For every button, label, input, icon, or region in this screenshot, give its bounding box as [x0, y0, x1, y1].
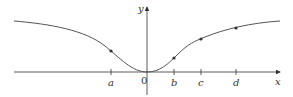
x-axis-label: x [275, 76, 281, 87]
point-a [109, 49, 112, 52]
tick-label-b: b [171, 77, 177, 88]
point-c [199, 37, 202, 40]
graph-figure: a 0 b c d x y [0, 0, 293, 97]
y-axis-label: y [137, 3, 144, 14]
graph-canvas: a 0 b c d x y [0, 0, 293, 97]
point-b [172, 56, 175, 59]
tick-label-a: a [108, 77, 114, 88]
point-d [234, 26, 237, 29]
tick-label-d: d [233, 77, 239, 88]
tick-label-c: c [198, 77, 204, 88]
origin-label: 0 [141, 75, 147, 86]
